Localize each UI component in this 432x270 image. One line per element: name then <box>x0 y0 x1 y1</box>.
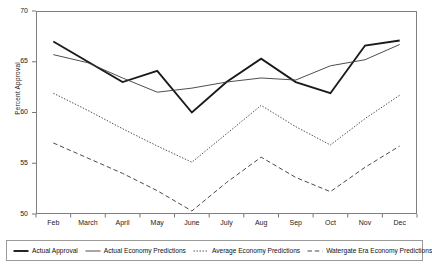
legend-item-4[interactable]: Watergate Era Economy Predictions <box>307 247 432 255</box>
axis-tick-marks <box>32 11 417 218</box>
legend-item-1[interactable]: Actual Approval <box>13 247 78 255</box>
series-line-4 <box>53 143 399 211</box>
data-series-lines <box>53 40 399 211</box>
series-line-3 <box>53 93 399 162</box>
legend-label: Watergate Era Economy Predictions <box>326 247 432 254</box>
legend-label: Actual Approval <box>32 247 78 254</box>
legend-item-3[interactable]: Average Economy Predictions <box>193 247 300 255</box>
legend-label: Actual Economy Predictions <box>104 247 186 254</box>
solid-thin-line-swatch <box>85 247 101 255</box>
series-line-1 <box>53 40 399 112</box>
solid-thick-line-swatch <box>13 247 29 255</box>
legend-label: Average Economy Predictions <box>212 247 300 254</box>
dashed-line-swatch <box>307 247 323 255</box>
chart-legend: Actual ApprovalActual Economy Prediction… <box>6 240 423 261</box>
legend-item-2[interactable]: Actual Economy Predictions <box>85 247 186 255</box>
dotted-line-swatch <box>193 247 209 255</box>
